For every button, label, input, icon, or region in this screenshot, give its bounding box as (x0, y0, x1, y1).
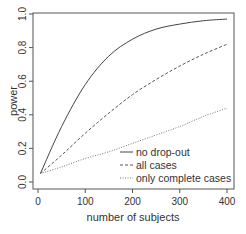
legend-entry: all cases (136, 159, 177, 171)
y-tick-label: 0.6 (17, 74, 28, 88)
series-line (40, 108, 227, 174)
legend-entry: only complete cases (136, 172, 231, 184)
y-axis: 0.00.20.40.60.81.0 (17, 7, 33, 189)
y-tick-label: 0.0 (17, 175, 28, 189)
x-axis: 0100200300400 (35, 189, 236, 207)
x-tick-label: 200 (124, 196, 141, 207)
series-line (40, 44, 227, 173)
x-tick-label: 100 (77, 196, 94, 207)
y-tick-label: 0.2 (17, 141, 28, 155)
plot-box (33, 13, 234, 189)
legend-entry: no drop-out (136, 146, 190, 158)
legend: no drop-outall casesonly complete cases (120, 146, 231, 184)
x-tick-label: 300 (171, 196, 188, 207)
series-line (40, 19, 227, 174)
x-axis-label: number of subjects (87, 211, 180, 223)
y-axis-label: power (7, 86, 19, 116)
power-chart: 0.00.20.40.60.81.0 0100200300400 no drop… (0, 0, 246, 234)
x-tick-label: 0 (35, 196, 41, 207)
x-tick-label: 400 (219, 196, 236, 207)
y-tick-label: 0.8 (17, 40, 28, 54)
y-tick-label: 1.0 (17, 7, 28, 21)
series-lines (40, 19, 227, 174)
